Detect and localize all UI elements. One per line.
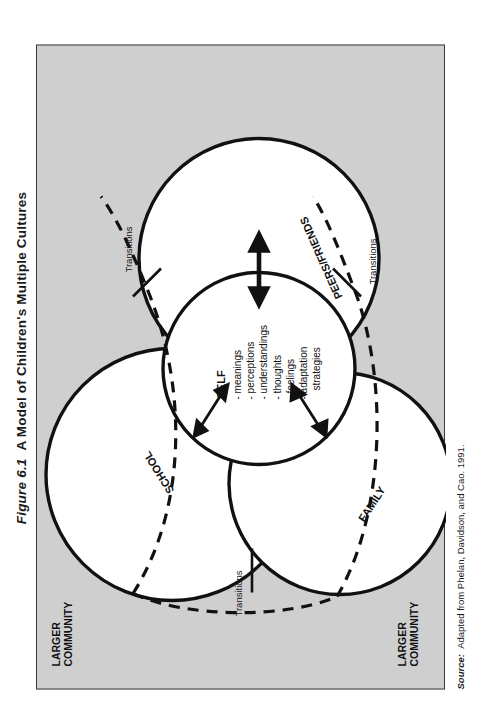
figure-title-text: A Model of Children's Multiple Cultures bbox=[14, 191, 29, 450]
self-attribute-item: - perceptions bbox=[244, 325, 257, 400]
self-attribute-item: - meanings bbox=[231, 325, 244, 400]
source-label: Source: bbox=[455, 654, 466, 689]
self-attribute-item: - thoughts bbox=[271, 325, 284, 400]
larger-community-top-label: LARGER COMMUNITY bbox=[51, 601, 74, 666]
diagram-panel: LARGER COMMUNITY LARGER COMMUNITY SCHOOL… bbox=[36, 44, 445, 689]
figure-source: Source: Adapted from Phelan, Davidson, a… bbox=[455, 29, 466, 689]
self-attribute-item: - adaptation bbox=[297, 325, 310, 400]
self-attribute-item: - feelings bbox=[284, 325, 297, 400]
transitions-left-label: Transitions bbox=[233, 570, 244, 616]
self-label: SELF bbox=[215, 370, 227, 398]
figure-page: Figure 6.1 A Model of Children's Multipl… bbox=[0, 0, 490, 715]
diagram-stage: LARGER COMMUNITY LARGER COMMUNITY SCHOOL… bbox=[37, 43, 446, 688]
source-text: Adapted from Phelan, Davidson, and Cao. … bbox=[455, 444, 466, 648]
figure-title: Figure 6.1 A Model of Children's Multipl… bbox=[14, 0, 29, 715]
larger-community-bottom-label: LARGER COMMUNITY bbox=[397, 601, 420, 666]
self-attribute-item-cont: strategies bbox=[310, 325, 323, 400]
self-attribute-list: - meanings - perceptions - understanding… bbox=[231, 325, 323, 400]
figure-number: Figure 6.1 bbox=[14, 458, 29, 524]
rotated-figure-container: Figure 6.1 A Model of Children's Multipl… bbox=[0, 0, 490, 715]
transitions-upper-right-label: Transitions bbox=[123, 226, 134, 272]
transitions-lower-right-label: Transitions bbox=[367, 238, 378, 284]
self-attribute-item: - understandings bbox=[257, 325, 270, 400]
figure-body: Figure 6.1 A Model of Children's Multipl… bbox=[0, 0, 490, 715]
